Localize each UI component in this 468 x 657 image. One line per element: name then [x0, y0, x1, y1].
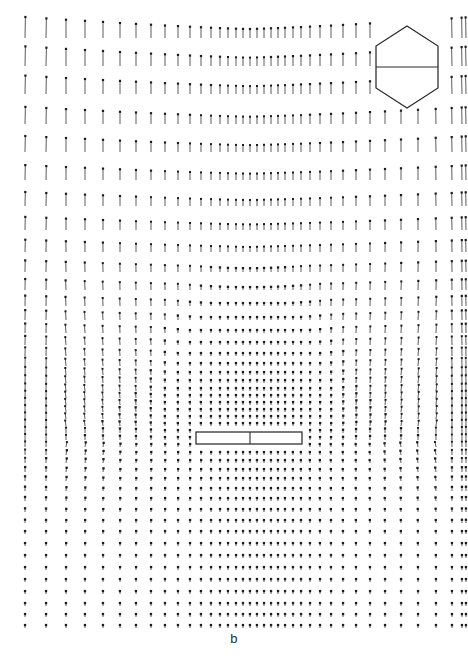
vector-arrow-head — [119, 443, 121, 445]
vector-arrow-head — [330, 53, 332, 55]
vector-arrow-head — [84, 519, 86, 521]
vector-arrow-head — [435, 602, 437, 604]
vector-arrow-head — [400, 167, 402, 169]
vector-arrow-head — [384, 413, 386, 415]
vector-arrow-head — [309, 422, 311, 424]
vector-arrow-head — [451, 519, 453, 521]
vector-arrow-head — [369, 243, 371, 245]
vector-arrow-head — [277, 487, 279, 489]
vector-arrow-head — [235, 144, 237, 146]
vector-arrow-head — [164, 141, 166, 143]
vector-arrow-head — [342, 82, 344, 84]
vector-arrow-head — [24, 624, 26, 626]
vector-arrow-head — [342, 459, 344, 461]
vector-arrow-head — [319, 429, 321, 431]
vector-arrow-head — [263, 387, 265, 389]
vector-arrow-head — [451, 613, 453, 615]
vector-arrow-head — [461, 366, 463, 368]
vector-arrow-head — [249, 590, 251, 592]
vector-arrow-head — [451, 279, 453, 281]
vector-arrow-head — [84, 497, 86, 499]
vector-arrow-head — [461, 496, 463, 498]
vector-arrow-head — [227, 530, 229, 532]
vector-arrow-head — [65, 590, 67, 592]
vector-arrow-head — [256, 246, 258, 248]
vector-arrow-head — [65, 486, 67, 488]
vector-arrow-head — [135, 578, 137, 580]
vector-arrow-head — [270, 624, 272, 626]
vector-arrow-head — [135, 392, 137, 394]
vector-arrow-head — [270, 554, 272, 556]
vector-arrow-head — [219, 497, 221, 499]
vector-arrow-head — [102, 242, 104, 244]
vector-arrow-head — [263, 316, 265, 318]
vector-arrow-head — [435, 193, 437, 195]
vector-arrow-head — [300, 114, 302, 116]
vector-arrow-head — [177, 244, 179, 246]
vector-arrow-head — [45, 602, 47, 604]
vector-arrow-head — [417, 497, 419, 499]
vector-arrow-head — [210, 352, 212, 354]
vector-arrow-head — [177, 477, 179, 479]
vector-arrow-head — [342, 386, 344, 388]
vector-arrow-head — [235, 394, 237, 396]
vector-arrow-head — [177, 578, 179, 580]
vector-arrow-head — [45, 279, 47, 281]
vector-arrow-head — [135, 602, 137, 604]
vector-arrow-head — [277, 459, 279, 461]
vector-arrow-head — [461, 466, 463, 468]
vector-arrow-head — [436, 398, 438, 400]
vector-arrow-head — [292, 554, 294, 556]
vector-arrow-head — [219, 341, 221, 343]
vector-arrow-head — [256, 173, 258, 175]
vector-arrow-head — [45, 426, 47, 428]
vector-arrow-head — [330, 283, 332, 285]
vector-arrow-head — [461, 433, 463, 435]
vector-arrow-head — [401, 376, 403, 378]
vector-arrow-head — [210, 401, 212, 403]
vector-arrow-head — [256, 624, 258, 626]
vector-arrow-head — [461, 542, 463, 544]
vector-arrow-head — [210, 590, 212, 592]
vector-arrow-head — [292, 602, 294, 604]
vector-arrow-head — [102, 110, 104, 112]
vector-arrow-head — [135, 508, 137, 510]
vector-arrow-head — [256, 578, 258, 580]
vector-arrow-head — [461, 426, 463, 428]
vector-arrow-head — [242, 85, 244, 87]
vector-arrow-head — [284, 143, 286, 145]
vector-arrow-head — [330, 429, 332, 431]
vector-arrow-head — [418, 398, 420, 400]
vector-arrow-head — [235, 371, 237, 373]
vector-arrow-head — [300, 542, 302, 544]
vector-arrow-head — [249, 459, 251, 461]
vector-arrow-head — [277, 223, 279, 225]
vector-arrow-head — [45, 519, 47, 521]
vector-arrow-head — [219, 379, 221, 381]
vector-arrow-head — [451, 107, 453, 109]
vector-arrow-head — [465, 519, 467, 521]
vector-arrow-head — [189, 459, 191, 461]
vector-arrow-head — [64, 383, 66, 385]
vector-arrow-head — [465, 106, 467, 108]
vector-arrow-head — [355, 385, 357, 387]
vector-arrow-head — [200, 422, 202, 424]
vector-arrow-head — [249, 497, 251, 499]
vector-arrow-head — [45, 107, 47, 109]
vector-arrow-head — [384, 168, 386, 170]
vector-arrow-head — [256, 422, 258, 424]
vector-arrow-head — [135, 282, 137, 284]
vector-arrow-head — [189, 468, 191, 470]
vector-arrow-head — [164, 361, 166, 363]
vector-arrow-head — [436, 375, 438, 377]
vector-arrow-head — [200, 26, 202, 28]
vector-arrow-head — [418, 413, 420, 415]
vector-arrow-head — [84, 218, 86, 220]
vector-arrow-head — [164, 339, 166, 341]
vector-arrow-head — [284, 266, 286, 268]
vector-arrow-head — [24, 322, 26, 324]
vector-arrow-head — [45, 217, 47, 219]
vector-arrow-head — [400, 297, 402, 299]
figure-panel: b — [0, 0, 468, 657]
vector-arrow-head — [355, 497, 357, 499]
